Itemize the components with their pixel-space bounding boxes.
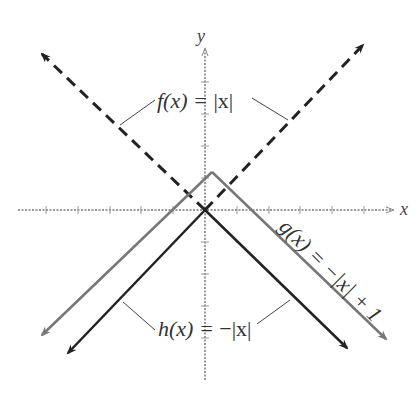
h-label-rhs: −|x| (219, 316, 251, 341)
x-axis: x (18, 199, 408, 219)
f-label-lhs: f(x) = (157, 88, 213, 113)
curve-f (42, 45, 363, 210)
f-label-rhs: |x| (213, 88, 233, 113)
g-label: g(x) = −|x| + 1 (274, 214, 387, 327)
x-axis-label: x (399, 199, 408, 219)
graph-svg: x y f(x) = |x| (0, 0, 419, 393)
label-g: g(x) = −|x| + 1 (274, 214, 387, 327)
svg-text:h(x) = −|x|: h(x) = −|x| (158, 316, 251, 341)
h-label-lhs: h(x) = (158, 316, 219, 341)
svg-text:f(x) = |x|: f(x) = |x| (157, 88, 233, 113)
y-axis-label: y (195, 26, 205, 46)
graph-canvas: x y f(x) = |x| (0, 0, 419, 393)
